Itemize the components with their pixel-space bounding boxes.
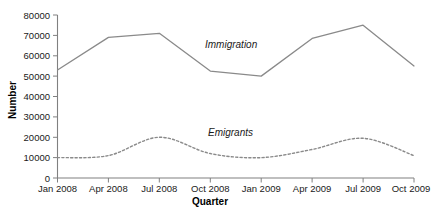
- series-annotation-emigrants: Emigrants: [208, 127, 253, 138]
- line-chart: 80000 70000 60000 50000 40000 30000 2000…: [0, 0, 435, 208]
- x-axis-tick-labels: Jan 2008 Apr 2008 Jul 2008 Oct 2008 Jan …: [38, 183, 430, 194]
- x-tick-label: Jan 2009: [242, 183, 281, 194]
- y-tick-label: 70000: [24, 30, 50, 41]
- x-tick-label: Oct 2009: [392, 183, 431, 194]
- y-tick-label: 60000: [24, 50, 50, 61]
- x-tick-label: Jul 2009: [345, 183, 381, 194]
- y-tick-label: 0: [45, 173, 50, 184]
- x-tick-label: Apr 2008: [89, 183, 128, 194]
- chart-container: 80000 70000 60000 50000 40000 30000 2000…: [0, 0, 435, 208]
- x-axis-tick-marks: [58, 178, 415, 183]
- y-axis-tick-marks: [53, 15, 58, 178]
- series-annotation-immigration: Immigration: [205, 39, 258, 50]
- y-tick-label: 20000: [24, 132, 50, 143]
- y-tick-label: 30000: [24, 111, 50, 122]
- x-tick-label: Jan 2008: [38, 183, 77, 194]
- y-tick-label: 50000: [24, 71, 50, 82]
- x-tick-label: Jul 2008: [141, 183, 177, 194]
- x-axis-title: Quarter: [192, 196, 228, 207]
- y-tick-label: 80000: [24, 10, 50, 21]
- x-tick-label: Apr 2009: [293, 183, 332, 194]
- y-axis-title: Number: [7, 81, 18, 119]
- y-tick-label: 10000: [24, 152, 50, 163]
- y-tick-label: 40000: [24, 91, 50, 102]
- series-line-immigration: [58, 25, 415, 76]
- x-tick-label: Oct 2008: [191, 183, 230, 194]
- y-axis-tick-labels: 80000 70000 60000 50000 40000 30000 2000…: [24, 10, 50, 184]
- series-line-emigrants: [58, 137, 415, 158]
